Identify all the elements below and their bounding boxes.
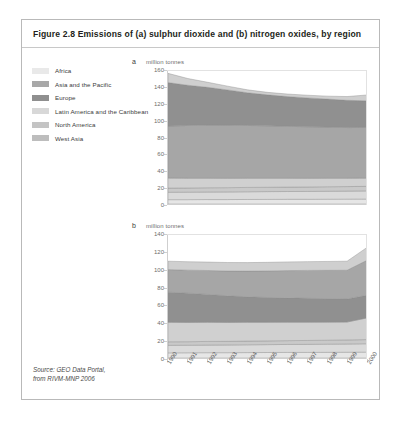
y-axis-tick-label: 100 (154, 118, 164, 124)
legend-item-label: Europe (55, 94, 76, 101)
legend-item-label: North America (55, 121, 96, 128)
y-axis-tick-label: 60 (157, 302, 164, 308)
plot-frame-right (366, 70, 367, 205)
y-axis-tick (164, 70, 167, 71)
x-axis-tick-label: 2000 (366, 351, 378, 366)
y-axis-tick (164, 270, 167, 271)
chart-b-canvas (167, 234, 367, 359)
y-axis-tick (164, 171, 167, 172)
y-axis-tick-label: 0 (161, 202, 164, 208)
legend-item-label: West Asia (55, 135, 83, 142)
legend-swatch-icon (32, 122, 49, 128)
y-axis-tick-label: 40 (157, 320, 164, 326)
y-axis-tick-label: 0 (161, 356, 164, 362)
y-axis-tick (164, 323, 167, 324)
y-axis-tick (164, 252, 167, 253)
area-series (168, 125, 367, 178)
panel-letter-b: b (132, 222, 136, 229)
y-axis-tick (164, 341, 167, 342)
y-axis-tick (164, 154, 167, 155)
y-axis-tick (164, 121, 167, 122)
chart-a-units: million tonnes (146, 59, 184, 65)
y-axis-tick-label: 140 (154, 84, 164, 90)
area-series (168, 247, 367, 271)
chart-b-units: million tonnes (146, 223, 184, 229)
chart-a-plot-area (167, 70, 367, 205)
y-axis-tick-label: 40 (157, 168, 164, 174)
legend-swatch-icon (32, 135, 49, 141)
panel-letter-a: a (132, 58, 136, 65)
y-axis-tick-label: 20 (157, 338, 164, 344)
figure-title: Figure 2.8 Emissions of (a) sulphur diox… (33, 29, 378, 40)
title-divider (22, 47, 379, 48)
legend-swatch-icon (32, 108, 49, 114)
plot-frame-top (167, 70, 367, 71)
y-axis-tick (164, 104, 167, 105)
y-axis-tick (164, 288, 167, 289)
y-axis-tick-label: 80 (157, 285, 164, 291)
y-axis-tick-label: 120 (154, 249, 164, 255)
area-series (168, 83, 367, 128)
legend-swatch-icon (32, 81, 49, 87)
y-axis-tick-label: 140 (154, 231, 164, 237)
y-axis-tick (164, 188, 167, 189)
figure-container: Figure 2.8 Emissions of (a) sulphur diox… (21, 19, 380, 400)
y-axis-tick-label: 100 (154, 267, 164, 273)
legend-swatch-icon (32, 95, 49, 101)
y-axis-tick (164, 234, 167, 235)
y-axis-tick (164, 205, 167, 206)
y-axis-tick (164, 305, 167, 306)
y-axis-tick-label: 120 (154, 101, 164, 107)
y-axis-tick-label: 160 (154, 67, 164, 73)
plot-frame-right (366, 234, 367, 359)
y-axis-tick (164, 87, 167, 88)
legend-item-label: Africa (55, 67, 71, 74)
y-axis-tick-label: 60 (157, 151, 164, 157)
y-axis-tick (164, 138, 167, 139)
chart-b-plot-area (167, 234, 367, 359)
y-axis-tick-label: 20 (157, 185, 164, 191)
legend-item-label: Asia and the Pacific (55, 81, 111, 88)
chart-panel-a: a million tonnes 020406080100120140160 (132, 58, 377, 238)
y-axis-tick-label: 80 (157, 135, 164, 141)
chart-a-canvas (167, 70, 367, 205)
chart-panel-b: b million tonnes 02040608010012014019901… (132, 222, 377, 397)
plot-frame-top (167, 234, 367, 235)
area-series (168, 178, 367, 188)
legend-swatch-icon (32, 68, 49, 74)
